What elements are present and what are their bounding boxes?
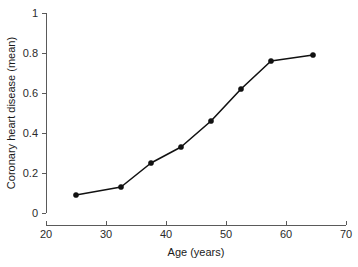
x-tick-label: 20 (40, 228, 52, 240)
y-tick-label: 0 (32, 207, 38, 219)
y-tick-label: 0.8 (23, 47, 38, 59)
series-line (76, 55, 313, 195)
x-axis: 203040506070 (40, 221, 352, 240)
y-axis: 00.20.40.60.81 (23, 7, 46, 219)
chart-figure: 00.20.40.60.81 203040506070 Age (years) … (0, 0, 358, 267)
series-markers (73, 52, 315, 197)
y-tick-label: 1 (32, 7, 38, 19)
data-point (208, 118, 213, 123)
data-point (310, 52, 315, 57)
y-tick-label: 0.6 (23, 87, 38, 99)
y-axis-ticks (42, 13, 46, 213)
x-tick-label: 50 (220, 228, 232, 240)
data-point (178, 144, 183, 149)
x-tick-label: 40 (160, 228, 172, 240)
x-tick-label: 60 (280, 228, 292, 240)
data-point (268, 58, 273, 63)
x-axis-tick-labels: 203040506070 (40, 228, 352, 240)
data-point (148, 160, 153, 165)
x-axis-title: Age (years) (168, 246, 225, 258)
data-point (238, 86, 243, 91)
y-axis-tick-labels: 00.20.40.60.81 (23, 7, 38, 219)
x-tick-label: 70 (340, 228, 352, 240)
y-tick-label: 0.2 (23, 167, 38, 179)
data-point (73, 192, 78, 197)
y-tick-label: 0.4 (23, 127, 38, 139)
y-axis-title: Coronary heart disease (mean) (5, 37, 17, 189)
chart-canvas: 00.20.40.60.81 203040506070 Age (years) … (0, 0, 358, 267)
x-axis-ticks (46, 221, 346, 225)
data-point (118, 184, 123, 189)
x-tick-label: 30 (100, 228, 112, 240)
data-series (73, 52, 315, 197)
